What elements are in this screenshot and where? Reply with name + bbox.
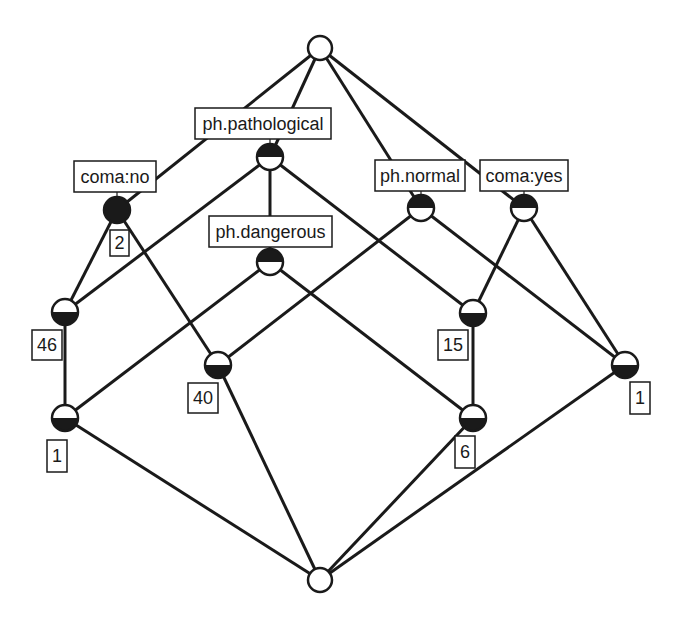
lattice-node-n15 [460, 300, 486, 326]
lattice-node-ph-dangerous [257, 249, 283, 275]
attribute-label-coma-no: coma:no [74, 161, 156, 197]
attribute-label-ph-dangerous: ph.dangerous [209, 216, 332, 249]
object-count-coma-no: 2 [110, 230, 129, 256]
lattice-node-ph-pathological [257, 144, 283, 170]
object-count-n46: 46 [32, 330, 62, 360]
lattice-edges [65, 48, 625, 580]
attribute-label-text: ph.normal [380, 166, 460, 186]
object-count-n1r: 1 [630, 382, 650, 414]
lattice-edge [65, 210, 117, 312]
lattice-node-n40 [205, 352, 231, 378]
object-count-text: 40 [193, 388, 213, 408]
object-count-text: 1 [52, 446, 62, 466]
object-count-n6: 6 [455, 436, 475, 468]
attribute-label-text: coma:yes [485, 166, 562, 186]
attribute-labels: coma:noph.pathologicalph.dangerousph.nor… [74, 108, 568, 249]
lattice-edge [320, 418, 473, 580]
lattice-edge [270, 48, 320, 157]
lattice-nodes [52, 36, 638, 592]
object-count-text: 1 [635, 388, 645, 408]
object-count-text: 2 [114, 233, 124, 253]
lattice-node-ph-normal [408, 195, 434, 221]
lattice-node-coma-no [104, 197, 130, 223]
object-count-n1l: 1 [47, 440, 67, 472]
attribute-label-text: ph.dangerous [215, 222, 325, 242]
attribute-label-text: ph.pathological [202, 114, 323, 134]
lattice-node-top [308, 36, 332, 60]
object-count-text: 6 [460, 442, 470, 462]
lattice-node-n1r [612, 352, 638, 378]
lattice-node-n1l [52, 405, 78, 431]
lattice-node-n46 [52, 299, 78, 325]
object-count-n15: 15 [438, 330, 468, 360]
attribute-label-ph-normal: ph.normal [375, 160, 465, 195]
object-count-text: 15 [443, 335, 463, 355]
lattice-node-n6 [460, 405, 486, 431]
lattice-node-bottom [308, 568, 332, 592]
concept-lattice: coma:noph.pathologicalph.dangerousph.nor… [0, 0, 680, 619]
lattice-edge [473, 208, 524, 313]
attribute-label-ph-pathological: ph.pathological [195, 108, 331, 144]
object-count-text: 46 [37, 335, 57, 355]
object-count-n40: 40 [188, 383, 218, 413]
lattice-edge [524, 208, 625, 365]
attribute-label-text: coma:no [80, 167, 149, 187]
attribute-label-coma-yes: coma:yes [480, 160, 568, 195]
lattice-node-coma-yes [511, 195, 537, 221]
